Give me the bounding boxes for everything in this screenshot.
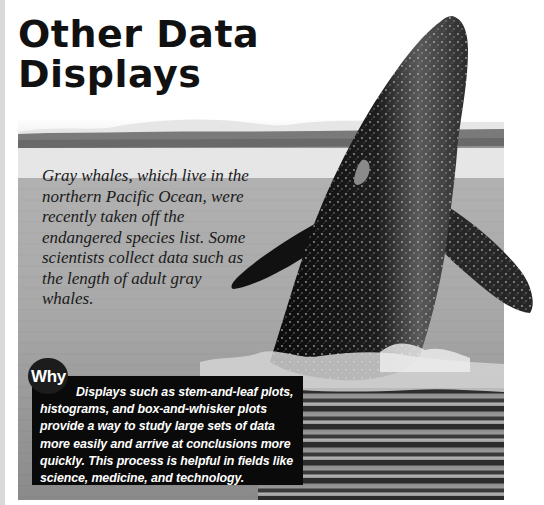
page-title-line-1: Other Data: [18, 14, 259, 54]
photo-caption: Gray whales, which live in the northern …: [42, 166, 257, 310]
page-title-line-2: Displays: [18, 54, 259, 94]
page-title: Other Data Displays: [18, 14, 259, 94]
page-margin-rule: [0, 0, 5, 505]
why-callout-text: Displays such as stem-and-leaf plots, hi…: [40, 384, 302, 487]
